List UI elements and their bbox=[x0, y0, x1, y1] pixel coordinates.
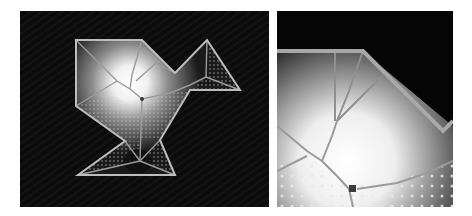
junction-node-detail bbox=[349, 185, 356, 192]
overview-panel bbox=[20, 11, 269, 207]
junction-node bbox=[140, 97, 144, 101]
polygon-medial-axis-figure bbox=[20, 11, 269, 207]
zoomed-detail-figure bbox=[277, 11, 453, 207]
detail-panel bbox=[277, 11, 453, 207]
